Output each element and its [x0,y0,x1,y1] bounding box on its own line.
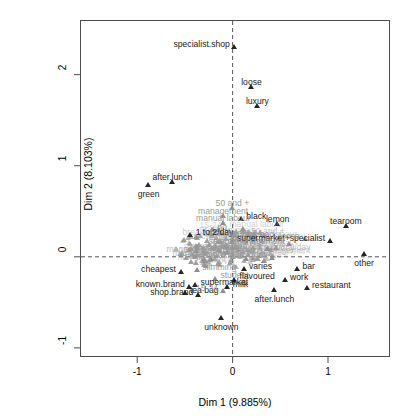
data-point-label: loose [279,231,300,241]
data-point-label: bar [302,261,314,271]
y-tick-label: -1 [57,332,68,348]
data-point-marker[interactable] [294,266,300,271]
data-point-label: after.lunch [153,172,193,182]
data-point-marker[interactable] [220,288,226,293]
data-point-marker[interactable] [304,285,310,290]
data-point-marker[interactable] [194,267,200,272]
data-point-label: restaurant [312,280,351,290]
data-point-marker[interactable] [231,44,237,49]
data-point-label: specialist.shop [174,39,230,49]
data-point-label: after.lunch [255,294,295,304]
data-point-label: 15-24 [196,283,218,293]
data-point-label: loose [241,77,262,87]
x-tick-label: 0 [219,366,247,377]
data-point-label: lemon [266,214,289,224]
data-point-label: sugar [185,251,207,261]
figure-canvas: Dim 2 (8.103%) Dim 1 (9.885%) -101-1012 … [0,0,406,418]
data-point-label: milk [233,279,248,289]
data-point-label: breakfast [206,250,241,260]
data-point-label: work [290,272,308,282]
x-tick-label: -1 [123,366,151,377]
data-point-marker[interactable] [271,287,277,292]
data-point-label: unknown [204,322,238,332]
x-tick-label: 1 [314,366,342,377]
data-point-label: luxury [246,96,269,106]
y-tick-label: 2 [57,59,68,75]
y-axis-title: Dim 2 (8.103%) [82,74,94,274]
data-point-label: other [354,258,374,268]
data-point-label: tearoom [330,216,362,226]
data-point-marker[interactable] [218,315,224,320]
data-point-label: orient [228,228,250,238]
data-point-marker[interactable] [145,182,151,187]
data-point-label: cheapest [141,264,176,274]
y-tick-label: 1 [57,150,68,166]
data-point-marker[interactable] [282,277,288,282]
data-point-label: varies [249,261,272,271]
data-point-marker[interactable] [178,269,184,274]
data-point-label: green [138,189,160,199]
x-axis-title: Dim 1 (9.885%) [80,396,390,408]
data-point-marker[interactable] [327,238,333,243]
data-point-label: shop.brand [150,287,193,297]
data-point-marker[interactable] [361,251,367,256]
y-tick-label: 0 [57,241,68,257]
